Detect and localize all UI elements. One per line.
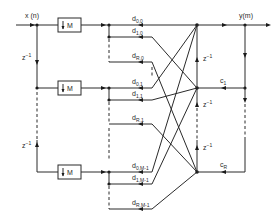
delay-label-right-2: z−1 <box>203 99 212 108</box>
filter-bank-diagram: x (n) z−1 z−1 M M M <box>0 0 275 224</box>
input-label: x (n) <box>25 12 39 20</box>
svg-text:d1,M-1: d1,M-1 <box>132 174 149 183</box>
delay-label-right-1: z−1 <box>203 53 212 62</box>
svg-text:c1: c1 <box>220 77 227 86</box>
svg-text:M: M <box>67 169 73 176</box>
svg-text:d0,M-1: d0,M-1 <box>132 162 149 171</box>
decimator-m-1: M <box>58 165 81 179</box>
svg-text:M: M <box>67 85 73 92</box>
svg-text:dR,0: dR,0 <box>132 52 144 61</box>
output-label: y(m) <box>239 12 253 20</box>
decimator-0: M <box>58 18 81 32</box>
branch-labels: d0,0 d1,0 dR,0 d0,1 d1,1 dR,1 d0,M-1 d1,… <box>132 15 150 208</box>
svg-text:d1,1: d1,1 <box>132 90 143 99</box>
decimator-1: M <box>58 81 81 95</box>
svg-text:M: M <box>67 22 73 29</box>
right-delay-chain: z−1 z−1 z−1 <box>195 23 212 174</box>
output-feedback: y(m) c1 cR <box>197 12 271 174</box>
svg-text:cR: cR <box>220 161 228 170</box>
delay-label-right-3: z−1 <box>203 142 212 151</box>
svg-text:dR,M-1: dR,M-1 <box>132 199 150 208</box>
svg-text:d0,1: d0,1 <box>132 78 143 87</box>
input-signal: x (n) <box>16 12 58 27</box>
delay-label-left-1: z−1 <box>22 52 31 61</box>
svg-text:d0,0: d0,0 <box>132 15 143 24</box>
svg-text:dR,1: dR,1 <box>132 114 144 123</box>
left-delay-chain: z−1 z−1 <box>22 25 58 172</box>
interconnect-lines <box>152 25 197 209</box>
svg-text:d1,0: d1,0 <box>132 27 143 36</box>
delay-label-left-2: z−1 <box>22 140 31 149</box>
